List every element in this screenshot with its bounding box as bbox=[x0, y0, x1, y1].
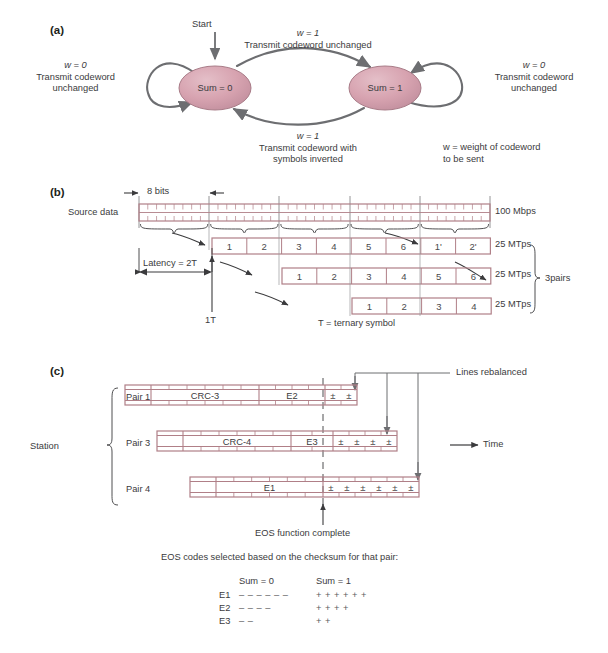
transition-top-condition: w = 1 bbox=[233, 28, 383, 38]
pair-cell-label: 2 bbox=[262, 241, 267, 252]
pair-cell-label: 4 bbox=[331, 241, 336, 252]
ternary-note: T = ternary symbol bbox=[318, 318, 395, 328]
station-symbol-label: ± bbox=[408, 482, 414, 493]
legend-row-sum0-0: – – – – – – bbox=[239, 590, 288, 600]
pair-cell-label: 6 bbox=[471, 271, 476, 282]
right-loop-action-2: unchanged bbox=[474, 83, 594, 93]
timing-guides bbox=[209, 228, 420, 316]
station-symbol-label: ± bbox=[328, 482, 334, 493]
pair-cell-label: 2 bbox=[402, 301, 407, 312]
pair-cell-label: 4 bbox=[471, 301, 476, 312]
station-pair-bar: CRC-3E2±± bbox=[125, 385, 357, 405]
station-symbol-label: ± bbox=[376, 482, 382, 493]
map-arrow-3 bbox=[220, 262, 252, 275]
right-loop-condition: w = 0 bbox=[474, 60, 594, 70]
one-t-label: 1T bbox=[205, 315, 216, 325]
legend-row-name-1: E2 bbox=[219, 603, 230, 613]
station-symbol-label: ± bbox=[370, 436, 376, 447]
transition-bottom bbox=[234, 108, 364, 125]
pair-cell-label: 3 bbox=[436, 301, 441, 312]
pair-cell-label: 5 bbox=[436, 271, 441, 282]
station-block-label: E2 bbox=[286, 391, 297, 401]
time-label: Time bbox=[483, 439, 503, 449]
eos-complete-label: EOS function complete bbox=[255, 528, 350, 538]
latency-arrow-head-left bbox=[139, 269, 147, 276]
pair-cell-label: 1' bbox=[435, 241, 442, 252]
rate-label-2: 25 MTps bbox=[495, 299, 531, 309]
pair-cell-label: 1 bbox=[227, 241, 232, 252]
state-label-sum1: Sum = 1 bbox=[368, 83, 403, 93]
rate-source-label: 100 Mbps bbox=[495, 206, 536, 216]
panel-c: CRC-3E2±±CRC-4E3±±±±E1±±±±±± bbox=[107, 373, 478, 525]
state-label-sum0: Sum = 0 bbox=[198, 83, 233, 93]
pair-cell-label: 4 bbox=[401, 271, 406, 282]
source-group-brace bbox=[211, 224, 278, 233]
pair-rows: 1234561'2'1234561234 bbox=[212, 238, 491, 314]
station-symbol-label: ± bbox=[392, 482, 398, 493]
weight-note-2: to be sent bbox=[443, 154, 484, 164]
pair-row: 123456 bbox=[282, 268, 491, 284]
source-group-brace bbox=[421, 224, 488, 233]
legend-col-header-1: Sum = 1 bbox=[316, 576, 351, 586]
source-group-brace bbox=[281, 224, 348, 233]
pair-row: 1234561'2' bbox=[212, 238, 490, 254]
pair-cell-label: 6 bbox=[401, 241, 406, 252]
transition-bottom-action-2: symbols inverted bbox=[223, 154, 393, 164]
pair-label-1: Pair 3 bbox=[126, 438, 150, 448]
pair-cell-label: 1 bbox=[367, 301, 372, 312]
transition-bottom-action-1: Transmit codeword with bbox=[223, 143, 393, 153]
three-pairs-brace bbox=[530, 245, 540, 313]
legend-caption: EOS codes selected based on the checksum… bbox=[161, 552, 398, 562]
station-symbol-label: ± bbox=[354, 436, 360, 447]
pair-label-2: Pair 4 bbox=[126, 484, 150, 494]
pair-cell-label: 3 bbox=[366, 271, 371, 282]
station-symbol-label: ± bbox=[346, 390, 352, 401]
figure-root: Sum = 0 Sum = 1 bbox=[0, 0, 608, 653]
latency-label: Latency = 2T bbox=[143, 258, 197, 268]
station-bar-outline bbox=[190, 477, 419, 497]
station-symbol-label: ± bbox=[338, 436, 344, 447]
legend-row-sum1-2: + + bbox=[316, 616, 331, 626]
transition-top-action: Transmit codeword unchanged bbox=[213, 40, 403, 50]
station-block-label: CRC-4 bbox=[223, 437, 251, 447]
map-arrow-5 bbox=[255, 292, 288, 305]
left-loop-action-1: Transmit codeword bbox=[18, 72, 133, 82]
panel-a-label: (a) bbox=[50, 24, 64, 36]
weight-note-1: w = weight of codeword bbox=[443, 142, 540, 152]
rate-label-0: 25 MTps bbox=[495, 239, 531, 249]
station-symbol-label: ± bbox=[344, 482, 350, 493]
station-block-label: E1 bbox=[264, 483, 275, 493]
source-group-brace bbox=[351, 224, 418, 233]
station-block-label: E3 bbox=[306, 437, 317, 447]
legend-row-name-0: E1 bbox=[219, 590, 230, 600]
legend-row-sum1-1: + + + + bbox=[316, 603, 349, 613]
lines-rebalanced-label: Lines rebalanced bbox=[456, 367, 527, 377]
station-bar-outline bbox=[157, 431, 397, 451]
left-loop-condition: w = 0 bbox=[18, 60, 133, 70]
panel-c-label: (c) bbox=[50, 365, 64, 377]
left-loop-action-2: unchanged bbox=[18, 83, 133, 93]
map-arrow-1 bbox=[172, 233, 205, 245]
station-symbol-label: ± bbox=[360, 482, 366, 493]
station-symbol-label: ± bbox=[330, 390, 336, 401]
legend-row-name-2: E3 bbox=[219, 616, 230, 626]
start-label: Start bbox=[192, 19, 212, 29]
pair-cell-label: 5 bbox=[366, 241, 371, 252]
eight-bits-label: 8 bits bbox=[147, 186, 169, 196]
source-braces bbox=[141, 224, 489, 233]
pair-cell-label: 1 bbox=[297, 271, 302, 282]
pair-row: 1234 bbox=[352, 298, 491, 314]
legend-col-header-0: Sum = 0 bbox=[239, 576, 274, 586]
rebalance-leaders bbox=[355, 373, 450, 475]
legend-row-sum1-0: + + + + + + bbox=[316, 590, 367, 600]
station-label: Station bbox=[30, 441, 59, 451]
pair-cell-label: 2' bbox=[469, 241, 476, 252]
three-pairs-label: 3pairs bbox=[545, 273, 570, 283]
transition-top bbox=[237, 48, 370, 67]
pair-label-0: Pair 1 bbox=[126, 392, 150, 402]
right-loop-action-1: Transmit codeword bbox=[474, 72, 594, 82]
latency-arrow-head-right bbox=[204, 269, 212, 276]
rate-label-1: 25 MTps bbox=[495, 269, 531, 279]
legend-row-sum0-2: – – bbox=[239, 616, 253, 626]
source-data-label: Source data bbox=[68, 207, 118, 217]
